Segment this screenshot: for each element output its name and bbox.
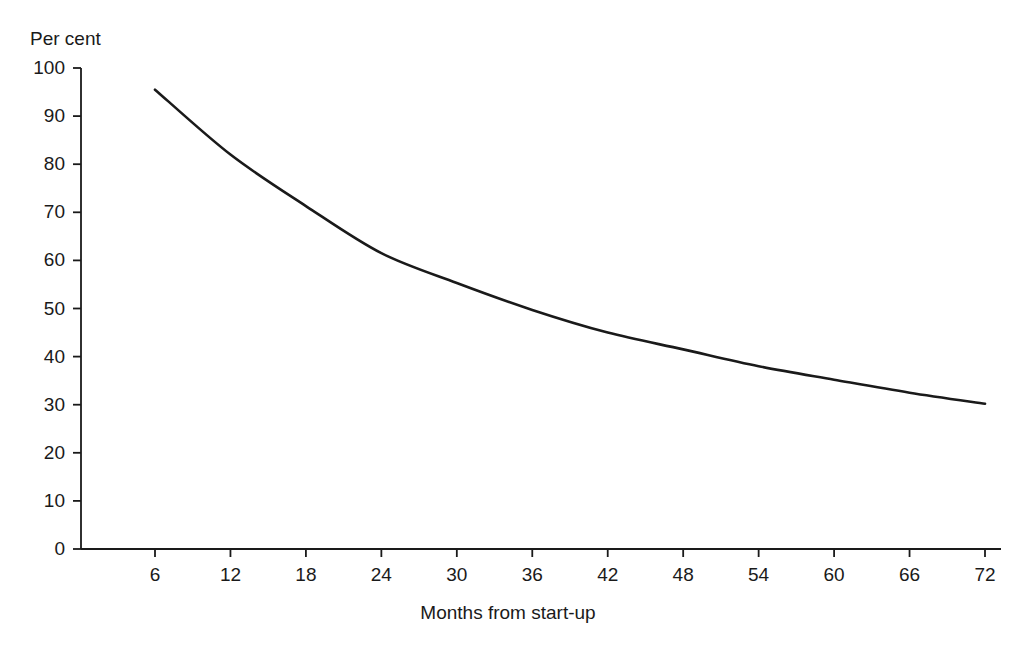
- x-tick-label: 60: [804, 565, 864, 584]
- x-tick-label: 48: [653, 565, 713, 584]
- y-tick-label: 20: [1, 443, 65, 462]
- x-tick-label: 36: [502, 565, 562, 584]
- y-tick-label: 100: [1, 58, 65, 77]
- x-tick-label: 24: [351, 565, 411, 584]
- x-tick-label: 54: [729, 565, 789, 584]
- y-tick-label: 0: [1, 539, 65, 558]
- x-tick-label: 18: [276, 565, 336, 584]
- plot-area: [0, 0, 1016, 647]
- x-axis-title: Months from start-up: [0, 602, 1016, 624]
- x-tick-label: 72: [955, 565, 1015, 584]
- x-tick-label: 66: [880, 565, 940, 584]
- y-tick-label: 80: [1, 154, 65, 173]
- x-tick-label: 6: [125, 565, 185, 584]
- y-tick-label: 50: [1, 299, 65, 318]
- x-tick-label: 12: [200, 565, 260, 584]
- y-tick-label: 90: [1, 106, 65, 125]
- chart-figure: Per cent 0102030405060708090100 61218243…: [0, 0, 1016, 647]
- axis-lines: [81, 68, 1001, 549]
- y-tick-label: 60: [1, 250, 65, 269]
- x-tick-label: 30: [427, 565, 487, 584]
- data-series-line: [155, 90, 985, 404]
- y-tick-label: 10: [1, 491, 65, 510]
- y-tick-label: 70: [1, 202, 65, 221]
- y-tick-marks: [73, 68, 81, 549]
- y-tick-label: 30: [1, 395, 65, 414]
- x-tick-marks: [155, 549, 985, 557]
- x-tick-label: 42: [578, 565, 638, 584]
- y-tick-label: 40: [1, 347, 65, 366]
